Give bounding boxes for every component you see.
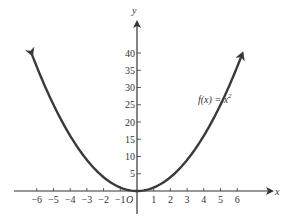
- x-tick-label: −4: [65, 194, 76, 205]
- y-tick-label: 30: [125, 82, 135, 93]
- y-tick-label: 15: [125, 134, 135, 145]
- x-tick-label: 3: [185, 194, 190, 205]
- x-axis-label: x: [274, 186, 280, 197]
- function-label: f(x) = x2: [198, 92, 232, 106]
- axes: [14, 22, 272, 214]
- x-tick-label: −6: [31, 194, 42, 205]
- x-tick-label: 4: [201, 194, 206, 205]
- x-tick-label: −1: [115, 194, 126, 205]
- x-tick-label: −5: [48, 194, 59, 205]
- x-tick-label: −2: [98, 194, 109, 205]
- x-tick-label: −3: [82, 194, 93, 205]
- y-tick-label: 10: [125, 151, 135, 162]
- x-tick-label: 5: [218, 194, 223, 205]
- y-tick-label: 25: [125, 99, 135, 110]
- parabola-chart: −6−5−4−3−2−1123456 510152025303540 x y O…: [0, 0, 282, 224]
- x-tick-label: 1: [151, 194, 156, 205]
- y-tick-label: 5: [130, 168, 135, 179]
- y-tick-label: 40: [125, 48, 135, 59]
- y-ticks: 510152025303540: [125, 48, 141, 180]
- x-tick-label: 2: [168, 194, 173, 205]
- y-tick-label: 20: [125, 117, 135, 128]
- x-tick-label: 6: [235, 194, 240, 205]
- y-tick-label: 35: [125, 65, 135, 76]
- origin-label: O: [126, 194, 133, 205]
- y-axis-label: y: [131, 5, 137, 16]
